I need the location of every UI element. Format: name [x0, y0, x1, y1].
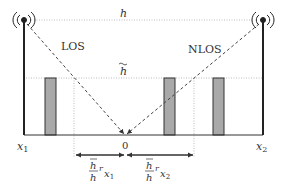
svg-text:x2: x2 — [160, 168, 170, 181]
svg-text:h: h — [90, 160, 96, 171]
svg-text:h: h — [146, 160, 152, 171]
svg-text:x1: x1 — [104, 168, 114, 181]
x2-label: x2 — [256, 140, 267, 154]
h-tilde-label: h — [120, 65, 127, 78]
building-2 — [164, 78, 175, 135]
building-1 — [45, 78, 56, 135]
h-label: h — [120, 7, 127, 20]
nlos-ray — [127, 24, 259, 134]
building-3 — [213, 78, 224, 135]
nlos-label: NLOS — [188, 43, 221, 56]
right-span-label: h h r x2 — [145, 159, 170, 183]
svg-text:h: h — [90, 172, 96, 183]
left-span-label: h h r x1 — [89, 159, 114, 183]
los-label: LOS — [61, 40, 85, 53]
x1-label: x1 — [17, 140, 28, 154]
los-nlos-diagram: h h LOS NLOS x1 x2 0 h h r x1 h h r x2 — [0, 0, 284, 190]
svg-text:h: h — [146, 172, 152, 183]
origin-label: 0 — [122, 140, 128, 151]
